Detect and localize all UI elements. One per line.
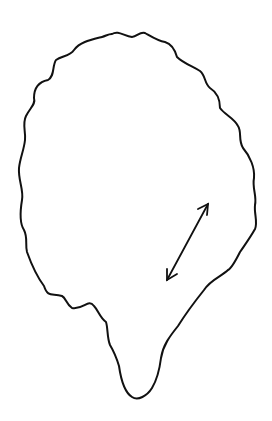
double-arrow-icon	[167, 204, 208, 280]
figure-canvas	[0, 0, 272, 421]
wavy-leaf-outline	[19, 33, 256, 399]
